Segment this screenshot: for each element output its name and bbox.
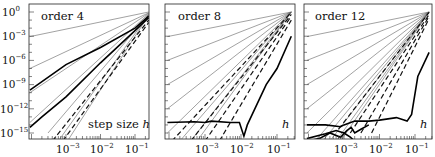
series-line [30, 16, 149, 90]
y-axis-labels: 100 10−3 10−6 10−9 10−12 10−15 [0, 5, 28, 139]
x-axis-labels: 10−3 10−2 10−1 10−3 10−2 10−1 10−3 10−2 … [56, 142, 429, 155]
series-line [307, 12, 429, 109]
ytick-label-3: 10−3 [2, 29, 26, 42]
panel-title-order-4: order 4 [41, 9, 84, 23]
ytick-label-0: 100 [2, 5, 20, 18]
ytick-label-12: 10−12 [0, 102, 28, 115]
xtick-label: 10−1 [125, 142, 149, 155]
xtick-label: 10−3 [195, 142, 219, 155]
series-line [323, 12, 430, 141]
panel-order-8 [165, 4, 295, 141]
series-line [167, 12, 291, 133]
panel-title-order-12: order 12 [315, 9, 365, 23]
ytick-label-15: 10−15 [0, 126, 28, 139]
xtick-label: 10−1 [267, 142, 291, 155]
series-line [307, 52, 429, 126]
figure: 100 10−3 10−6 10−9 10−12 10−15 order 4 o… [0, 0, 435, 157]
xtick-label: 10−3 [56, 142, 80, 155]
series-line [167, 12, 291, 109]
xtick-label: 10−3 [334, 142, 358, 155]
panel-title-order-8: order 8 [178, 9, 221, 23]
ytick-label-6: 10−6 [2, 53, 26, 66]
xlabel-panel-2: h [282, 117, 289, 131]
series-group [307, 12, 429, 141]
xtick-label: 10−1 [405, 142, 429, 155]
xlabel-panel-1: step size h [88, 117, 150, 131]
xlabel-panel-3: h [420, 117, 427, 131]
series-line [350, 14, 429, 133]
xtick-label: 10−2 [369, 142, 393, 155]
series-line [307, 131, 355, 142]
series-group [167, 12, 291, 141]
series-line [30, 18, 149, 128]
xtick-label: 10−2 [90, 142, 114, 155]
xtick-label: 10−2 [230, 142, 254, 155]
series-line [336, 12, 429, 141]
ytick-label-9: 10−9 [2, 77, 26, 90]
panel-order-12 [304, 4, 432, 141]
